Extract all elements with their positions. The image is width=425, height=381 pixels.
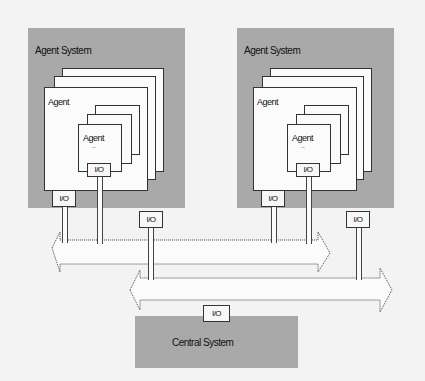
left-outer-wire	[62, 205, 68, 243]
left-sub-agent-label: Agent	[83, 133, 104, 143]
left-agent-system-title: Agent System	[35, 45, 91, 56]
right-sub-agent-label: Agent	[292, 133, 313, 143]
central-io: I/O	[203, 305, 230, 322]
bus-io-left: I/O	[139, 211, 163, 228]
right-agent-system-title: Agent System	[244, 45, 300, 56]
right-sub-agent-dots: ...	[301, 143, 305, 149]
right-agent-label: Agent	[257, 97, 278, 107]
lower-bus-arrow	[130, 268, 392, 312]
right-inner-io: I/O	[296, 163, 320, 177]
upper-bus-arrow	[52, 232, 330, 272]
left-sub-agent-dots: ...	[92, 143, 96, 149]
right-inner-wire	[306, 172, 312, 244]
right-outer-wire	[271, 205, 277, 243]
bus-io-right-wire	[356, 222, 362, 280]
central-system-title: Central System	[172, 337, 233, 348]
right-outer-io: I/O	[261, 190, 285, 207]
bus-io-left-wire	[148, 222, 154, 280]
left-outer-io: I/O	[52, 190, 76, 207]
left-inner-wire	[97, 172, 103, 244]
left-inner-io: I/O	[87, 163, 111, 177]
bus-io-right: I/O	[346, 211, 370, 228]
left-agent-label: Agent	[48, 97, 69, 107]
